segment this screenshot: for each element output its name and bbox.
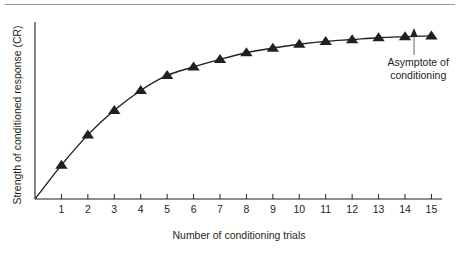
data-point-marker [161,70,173,79]
x-tick-label-12: 12 [340,203,364,215]
x-tick-label-4: 4 [129,203,153,215]
x-axis-ticks [61,194,431,199]
x-tick-label-1: 1 [49,203,73,215]
y-axis-title: Strength of conditioned response (CR) [10,15,24,215]
x-tick-label-15: 15 [419,203,443,215]
chart-canvas [0,0,460,254]
x-tick-label-13: 13 [367,203,391,215]
data-point-marker [135,85,147,94]
x-tick-label-14: 14 [393,203,417,215]
x-axis-title: Number of conditioning trials [35,229,443,241]
x-tick-label-10: 10 [287,203,311,215]
asymptote-arrow-icon [410,28,418,55]
x-tick-label-2: 2 [76,203,100,215]
axes [35,22,442,199]
figure-container: Strength of conditioned response (CR) Nu… [0,0,460,254]
asymptote-annotation: Asymptote of conditioning [353,56,460,82]
data-point-markers [55,30,437,168]
x-tick-label-9: 9 [261,203,285,215]
asymptote-annotation-line2: conditioning [353,69,460,82]
x-tick-label-7: 7 [208,203,232,215]
x-tick-label-5: 5 [155,203,179,215]
x-tick-label-11: 11 [314,203,338,215]
x-tick-label-8: 8 [234,203,258,215]
data-point-marker [55,160,67,169]
x-tick-label-6: 6 [182,203,206,215]
x-tick-label-3: 3 [102,203,126,215]
data-point-marker [399,31,411,40]
data-point-marker [425,30,437,39]
asymptote-annotation-line1: Asymptote of [353,56,460,69]
